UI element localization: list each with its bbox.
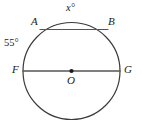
label-point-a: A bbox=[31, 16, 38, 27]
label-arc-x-degrees: x° bbox=[66, 2, 75, 13]
label-point-g: G bbox=[124, 64, 132, 75]
label-point-f: F bbox=[12, 64, 19, 75]
label-point-b: B bbox=[108, 16, 115, 27]
geometry-figure: A B x° 55° F G O bbox=[0, 0, 142, 132]
label-center-o: O bbox=[67, 75, 75, 86]
center-point-dot bbox=[69, 69, 73, 73]
label-angle-55-degrees: 55° bbox=[4, 37, 19, 48]
circle-diagram-canvas bbox=[0, 0, 142, 132]
